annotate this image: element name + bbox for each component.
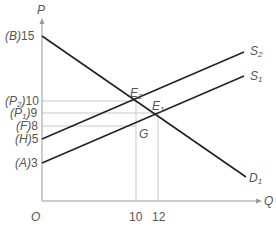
chart-canvas — [0, 0, 276, 233]
x-axis-arrow-icon — [256, 199, 262, 204]
g-label: G — [139, 128, 148, 140]
supply-curve-s1 — [42, 76, 244, 163]
e1-label: E1 — [152, 100, 164, 116]
e2-label: E2 — [130, 87, 142, 103]
q-axis-label: Q — [264, 195, 273, 207]
y-tick-h5: (H)5 — [15, 133, 38, 145]
d1-label: D1 — [249, 172, 262, 188]
s1-label: S1 — [250, 70, 262, 86]
y-axis-arrow-icon — [40, 18, 45, 24]
supply-demand-chart: P Q O 10 12 (B)15 (P2)10 (P1)9 (F)8 (H)5… — [0, 0, 276, 233]
y-tick-f8: (F)8 — [16, 120, 38, 132]
supply-curve-s2 — [42, 52, 244, 139]
demand-curve-d1 — [42, 36, 246, 177]
origin-label: O — [31, 211, 40, 223]
s2-label: S2 — [250, 45, 262, 61]
y-tick-a3: (A)3 — [15, 157, 38, 169]
p-axis-label: P — [37, 4, 45, 16]
x-tick-10: 10 — [129, 211, 142, 223]
x-tick-12: 12 — [152, 211, 165, 223]
y-tick-b15: (B)15 — [5, 30, 34, 42]
